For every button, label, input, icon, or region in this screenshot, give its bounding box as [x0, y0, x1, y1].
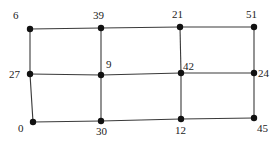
node-r2c0 — [30, 119, 36, 125]
node-r0c1 — [98, 25, 104, 31]
edge-r1c1-r1c2 — [101, 73, 181, 75]
node-label-r1c3: 24 — [258, 67, 270, 79]
node-label-r0c3: 51 — [246, 8, 257, 20]
edge-r2c0-r2c1 — [33, 121, 101, 122]
node-label-r0c0: 6 — [13, 9, 19, 21]
edge-r2c2-r2c3 — [181, 118, 254, 119]
node-label-r2c3: 45 — [257, 122, 269, 134]
node-label-r1c0: 27 — [9, 68, 21, 80]
node-r0c3 — [251, 24, 257, 30]
edge-r1c0-r2c0 — [30, 74, 33, 122]
node-label-r0c1: 39 — [93, 9, 105, 21]
node-r2c2 — [178, 116, 184, 122]
edge-r0c2-r1c2 — [180, 27, 181, 73]
node-label-r2c1: 30 — [96, 125, 108, 137]
node-label-r2c2: 12 — [175, 124, 186, 136]
edges-group — [30, 27, 254, 122]
node-label-r2c0: 0 — [18, 122, 24, 134]
node-r1c3 — [251, 70, 257, 76]
edge-r1c0-r1c1 — [30, 74, 101, 75]
grid-graph-diagram: 639215127942240301245 — [0, 0, 278, 147]
edge-r0c1-r0c2 — [101, 27, 180, 28]
node-r0c2 — [177, 24, 183, 30]
node-r0c0 — [27, 26, 33, 32]
node-r1c1 — [98, 72, 104, 78]
node-label-r0c2: 21 — [172, 8, 183, 20]
node-r1c0 — [27, 71, 33, 77]
edge-r0c0-r0c1 — [30, 28, 101, 29]
node-label-r1c2: 42 — [183, 60, 194, 72]
edge-r2c1-r2c2 — [101, 119, 181, 121]
node-r2c3 — [251, 115, 257, 121]
node-label-r1c1: 9 — [106, 58, 112, 70]
node-r2c1 — [98, 118, 104, 124]
